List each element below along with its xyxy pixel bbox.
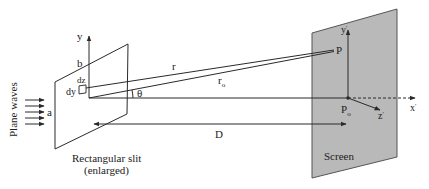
theta-arc [132, 90, 133, 98]
r0-label: ro [218, 74, 226, 89]
point-p0 [346, 96, 350, 100]
dz-label: dz [77, 75, 86, 85]
b-label: b [77, 57, 83, 69]
screen-label: Screen [324, 150, 354, 162]
plane-waves-label: Plane waves [7, 82, 19, 137]
d-label: D [215, 128, 223, 140]
slit-caption-line2: (enlarged) [84, 164, 129, 177]
r-ray [86, 50, 334, 88]
y-axis-label: y [77, 30, 83, 42]
r-label: r [172, 60, 176, 72]
r0-ray [89, 52, 334, 99]
dy-label: dy [66, 86, 76, 97]
slit-caption-line1: Rectangular slit [72, 152, 141, 164]
x-prime-label: x' [410, 102, 416, 113]
plane-wave-arrows [25, 100, 44, 124]
theta-label: θ [137, 87, 142, 99]
p-label: P [336, 44, 342, 56]
diffraction-diagram: Plane waves Rectangular slit (enlarged) … [0, 0, 429, 189]
area-element [79, 85, 86, 94]
a-label: a [47, 106, 52, 118]
